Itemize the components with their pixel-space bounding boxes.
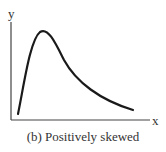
x-axis-label: x	[152, 113, 159, 128]
figure-caption: (b) Positively skewed	[0, 129, 166, 145]
y-axis-label: y	[8, 6, 15, 21]
skewed-curve	[18, 31, 133, 114]
